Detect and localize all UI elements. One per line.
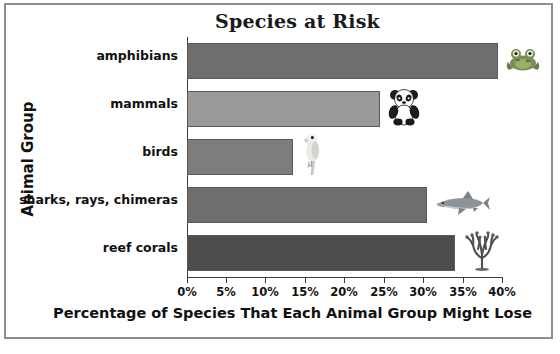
x-tick-10 <box>265 277 266 283</box>
table-row: reef corals <box>187 229 502 277</box>
table-row: mammals <box>187 85 502 133</box>
x-axis-title: Percentage of Species That Each Animal G… <box>6 305 551 321</box>
chart-frame: Species at Risk Animal Group amphibians <box>4 3 553 339</box>
x-tick-label-20: 20% <box>330 285 358 299</box>
x-tick-0 <box>187 277 188 283</box>
x-tick-30 <box>423 277 424 283</box>
bar-sharks[interactable] <box>187 187 427 223</box>
x-tick-label-0: 0% <box>177 285 197 299</box>
parrot-icon <box>299 132 325 182</box>
bar-reef-corals[interactable] <box>187 235 455 271</box>
x-tick-35 <box>463 277 464 283</box>
x-tick-40 <box>502 277 503 283</box>
table-row: birds <box>187 133 502 181</box>
x-tick-15 <box>305 277 306 283</box>
category-label-reef-corals: reef corals <box>103 240 178 255</box>
x-tick-label-15: 15% <box>291 285 319 299</box>
plot-area: amphibians <box>187 37 502 277</box>
shark-icon <box>433 190 491 220</box>
x-axis: 0% 5% 10% 15% 20% 25% 30% 35% 40% <box>187 277 503 278</box>
panda-icon <box>386 88 422 130</box>
category-label-mammals: mammals <box>110 96 178 111</box>
category-label-amphibians: amphibians <box>96 48 178 63</box>
x-tick-label-10: 10% <box>251 285 279 299</box>
x-tick-25 <box>384 277 385 283</box>
frog-icon <box>504 44 542 78</box>
x-tick-20 <box>344 277 345 283</box>
category-label-birds: birds <box>142 144 178 159</box>
x-tick-label-40: 40% <box>488 285 516 299</box>
bar-mammals[interactable] <box>187 91 380 127</box>
page-title: Species at Risk <box>6 10 551 32</box>
x-tick-label-25: 25% <box>370 285 398 299</box>
coral-icon <box>461 231 503 275</box>
bar-birds[interactable] <box>187 139 293 175</box>
category-label-sharks: sharks, rays, chimeras <box>19 192 178 207</box>
bar-amphibians[interactable] <box>187 43 498 79</box>
x-tick-label-5: 5% <box>216 285 236 299</box>
y-axis-title: Animal Group <box>19 89 37 229</box>
chart-plot-container: Species at Risk Animal Group amphibians <box>6 5 551 337</box>
x-tick-label-35: 35% <box>449 285 477 299</box>
x-tick-5 <box>226 277 227 283</box>
table-row: amphibians <box>187 37 502 85</box>
table-row: sharks, rays, chimeras <box>187 181 502 229</box>
x-tick-label-30: 30% <box>409 285 437 299</box>
